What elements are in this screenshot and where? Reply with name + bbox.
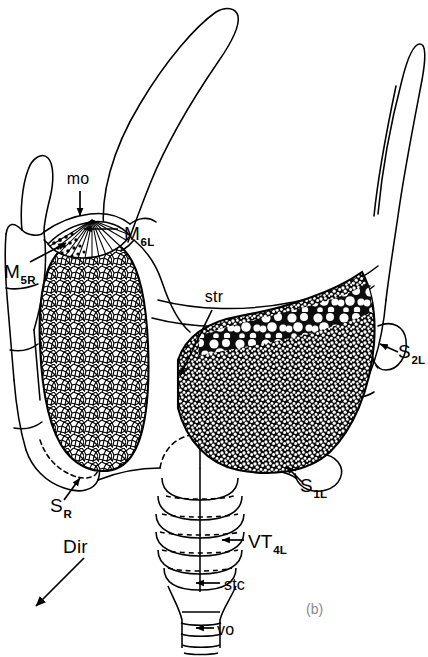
label-mo: mo — [67, 170, 90, 187]
panel-label: (b) — [306, 601, 323, 617]
figure-panel: mo M6L M5R str S2L S1L SR Dir VT4L stc v… — [0, 0, 428, 657]
label-stc: stc — [224, 576, 245, 593]
label-dir: Dir — [63, 536, 88, 557]
anatomical-line-drawing: mo M6L M5R str S2L S1L SR Dir VT4L stc v… — [0, 0, 428, 657]
label-str: str — [205, 288, 224, 305]
label-vo: vo — [217, 621, 234, 638]
left-stippled-mass — [40, 237, 149, 471]
